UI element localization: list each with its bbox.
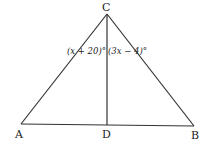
label-d: D [102,128,111,141]
segment-cb [107,14,194,126]
angle-acd-label: (x + 20)° [67,46,106,56]
segment-ca [21,14,107,124]
label-c: C [102,1,110,14]
label-b: B [191,129,199,142]
label-a: A [14,128,24,141]
triangle-diagram: C A D B (x + 20)° (3x − 4)° [0,0,212,149]
angle-dcb-label: (3x − 4)° [108,46,147,56]
